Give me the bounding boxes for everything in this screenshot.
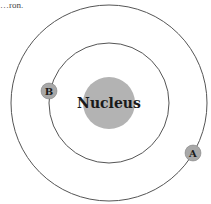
electron-b-label: B xyxy=(45,86,53,97)
electron-a-label: A xyxy=(188,148,197,159)
atom-diagram: …ron. Nucleus B A xyxy=(0,0,211,204)
nucleus-label: Nucleus xyxy=(77,95,141,111)
atom-svg: Nucleus B A xyxy=(0,0,211,204)
